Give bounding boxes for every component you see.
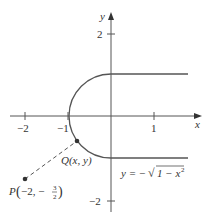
x-tick-label-neg1: −1 xyxy=(57,122,69,134)
point-p-label: P ( −2, − 3 2 ) xyxy=(8,184,63,201)
point-q-label: Q(x, y) xyxy=(61,154,92,167)
x-tick-label-1: 1 xyxy=(151,122,157,134)
x-tick-label-neg2: −2 xyxy=(17,122,29,134)
graph-figure: x y −2 −1 1 2 −2 Q(x, y) P ( −2, − 3 2 )… xyxy=(0,0,211,219)
svg-text:−2, −: −2, − xyxy=(21,185,44,197)
y-tick-label-2: 2 xyxy=(97,28,103,40)
svg-text:3: 3 xyxy=(53,184,57,192)
y-axis-label: y xyxy=(99,10,105,22)
svg-text:): ) xyxy=(58,184,63,200)
svg-text:1 − x: 1 − x xyxy=(157,167,180,179)
svg-text:P: P xyxy=(8,185,16,197)
svg-text:√: √ xyxy=(148,166,155,180)
point-q xyxy=(75,139,80,144)
svg-text:2: 2 xyxy=(53,193,57,201)
svg-text:2: 2 xyxy=(181,166,185,174)
point-p xyxy=(23,177,28,182)
equation-label: y = − √ 1 − x 2 xyxy=(120,166,185,180)
x-axis-label: x xyxy=(194,118,200,130)
y-tick-label-neg2: −2 xyxy=(89,195,101,207)
svg-text:y = −: y = − xyxy=(120,167,146,179)
y-axis-arrow-icon xyxy=(108,12,114,20)
